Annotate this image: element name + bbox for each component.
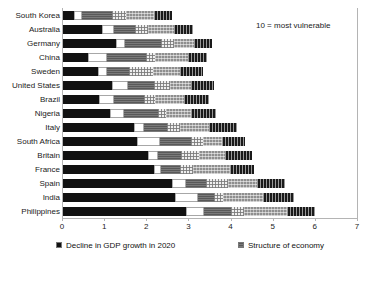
- y-axis-label-south-africa: South Africa: [0, 137, 60, 146]
- bar-segment-health: [180, 165, 193, 174]
- bar-segment-imbalance: [223, 193, 263, 202]
- bar-segment-policy: [209, 123, 237, 132]
- bar-segment-policy: [230, 165, 254, 174]
- x-axis-tick: [188, 218, 189, 221]
- bar-segment-structure: [107, 67, 129, 76]
- y-axis-label-spain: Spain: [0, 179, 60, 188]
- bar-row: [62, 81, 214, 90]
- bar-segment-health: [214, 193, 223, 202]
- bar-segment-policy: [194, 39, 212, 48]
- bar-segment-imbalance: [180, 123, 209, 132]
- bar-segment-imbalance: [199, 151, 225, 160]
- bar-segment-labour: [137, 137, 160, 146]
- x-axis-tick-label: 6: [305, 222, 325, 231]
- y-axis-line: [62, 8, 63, 219]
- bar-segment-labour: [99, 95, 114, 104]
- bar-segment-structure: [161, 165, 180, 174]
- vulnerability-stacked-bar-chart: South KoreaAustraliaGermanyChinaSwedenUn…: [0, 0, 366, 287]
- bar-segment-imbalance: [228, 179, 257, 188]
- bar-segment-decline: [62, 151, 148, 160]
- y-axis-label-britain: Britain: [0, 151, 60, 160]
- bar-segment-health: [167, 123, 180, 132]
- bar-segment-imbalance: [244, 207, 287, 216]
- legend-item-decline[interactable]: Decline in GDP growth in 2020: [56, 238, 238, 252]
- bar-segment-imbalance: [155, 95, 185, 104]
- bar-segment-decline: [62, 67, 98, 76]
- bar-row: [62, 179, 285, 188]
- y-axis-label-australia: Australia: [0, 25, 60, 34]
- x-axis-tick-label: 4: [221, 222, 241, 231]
- x-axis-tick: [231, 218, 232, 221]
- bar-segment-decline: [62, 109, 110, 118]
- bar-segment-decline: [62, 123, 134, 132]
- bar-segment-policy: [184, 95, 209, 104]
- bar-segment-structure: [160, 137, 190, 146]
- y-axis-label-india: India: [0, 193, 60, 202]
- bar-segment-decline: [62, 207, 186, 216]
- bar-segment-labour: [98, 67, 107, 76]
- bar-segment-health: [154, 81, 170, 90]
- legend-label: Structure of economy: [248, 241, 324, 250]
- bar-segment-policy: [154, 11, 172, 20]
- y-axis-label-brazil: Brazil: [0, 95, 60, 104]
- bar-row: [62, 123, 237, 132]
- bar-segment-labour: [102, 25, 114, 34]
- bar-segment-labour: [88, 53, 107, 62]
- y-axis-label-sweden: Sweden: [0, 67, 60, 76]
- legend-item-structure[interactable]: Structure of economy: [238, 238, 366, 252]
- x-axis-tick: [315, 218, 316, 221]
- chart-annotation: 10 = most vulnerable: [256, 21, 331, 30]
- bar-segment-decline: [62, 193, 175, 202]
- x-axis-tick-label: 3: [178, 222, 198, 231]
- bar-row: [62, 11, 172, 20]
- bar-segment-structure: [114, 95, 144, 104]
- bar-segment-health: [161, 39, 174, 48]
- bar-segment-decline: [62, 179, 172, 188]
- bar-row: [62, 137, 245, 146]
- bar-segment-health: [158, 109, 166, 118]
- chart-legend: Decline in GDP growth in 2020Structure o…: [56, 238, 356, 282]
- bar-segment-structure: [186, 179, 206, 188]
- bar-segment-policy: [222, 137, 245, 146]
- x-axis-tick: [104, 218, 105, 221]
- bar-segment-imbalance: [148, 25, 173, 34]
- bar-segment-policy: [188, 53, 207, 62]
- bar-segment-decline: [62, 137, 137, 146]
- bar-segment-policy: [225, 151, 252, 160]
- bar-segment-health: [231, 207, 244, 216]
- bar-segment-structure: [114, 25, 135, 34]
- bar-series-container: [62, 8, 357, 218]
- y-axis-label-france: France: [0, 165, 60, 174]
- bar-segment-labour: [134, 123, 143, 132]
- y-axis-label-south-korea: South Korea: [0, 11, 60, 20]
- legend-label: Decline in GDP growth in 2020: [66, 241, 175, 250]
- bar-segment-structure: [204, 207, 231, 216]
- bar-segment-health: [146, 53, 155, 62]
- legend-swatch-decline-icon: [56, 242, 62, 248]
- bar-segment-labour: [175, 193, 198, 202]
- bar-segment-health: [191, 137, 204, 146]
- bar-segment-imbalance: [166, 109, 191, 118]
- bar-segment-health: [144, 95, 155, 104]
- bar-segment-imbalance: [174, 39, 194, 48]
- y-axis-label-china: China: [0, 53, 60, 62]
- bar-segment-labour: [172, 179, 185, 188]
- bar-segment-health: [135, 25, 148, 34]
- y-axis-label-germany: Germany: [0, 39, 60, 48]
- y-axis-label-united-states: United States: [0, 81, 60, 90]
- bar-segment-decline: [62, 25, 102, 34]
- bar-segment-structure: [158, 151, 181, 160]
- x-axis-tick: [146, 218, 147, 221]
- bar-segment-imbalance: [193, 165, 230, 174]
- bar-segment-policy: [263, 193, 293, 202]
- bar-segment-decline: [62, 39, 116, 48]
- bar-segment-policy: [257, 179, 286, 188]
- bar-segment-structure: [128, 81, 154, 90]
- x-axis-tick-label: 7: [347, 222, 366, 231]
- bar-segment-labour: [148, 151, 157, 160]
- bar-segment-labour: [112, 81, 128, 90]
- x-axis-tick-label: 5: [263, 222, 283, 231]
- bar-segment-health: [181, 151, 199, 160]
- y-axis-label-italy: Italy: [0, 123, 60, 132]
- bar-segment-decline: [62, 11, 74, 20]
